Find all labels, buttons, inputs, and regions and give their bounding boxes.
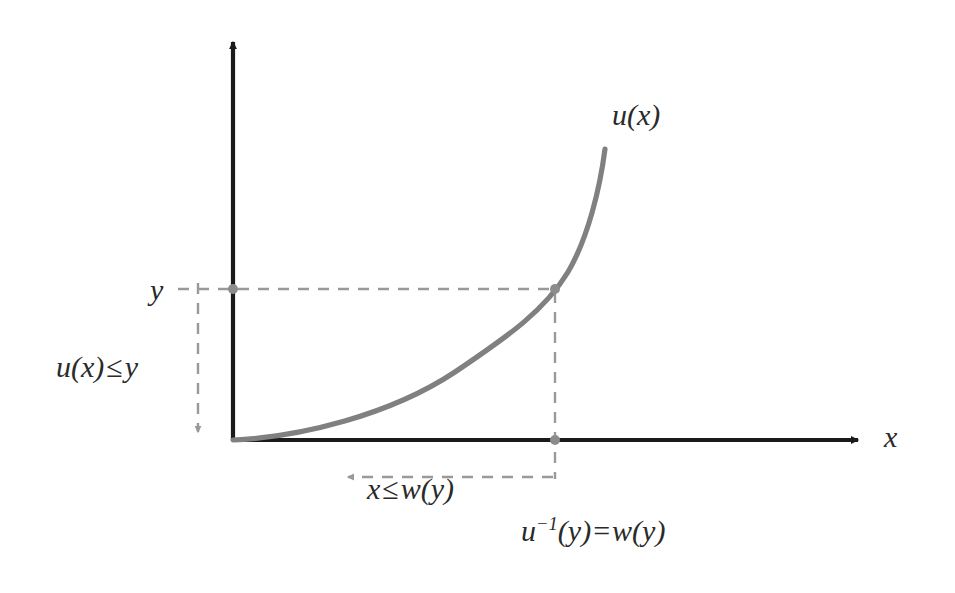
bracket-label-u-le-y-arg: (x) xyxy=(71,350,104,383)
curve-label-u-of-x: u(x) xyxy=(612,100,660,130)
bracket-label-u-le-y: u(x)≤y xyxy=(56,352,138,382)
x-axis-marker-dot xyxy=(550,435,560,445)
less-equal-operator-vertical: ≤ xyxy=(104,350,124,383)
diagram-graphic xyxy=(0,0,955,593)
inverse-equation-label: u−1(y)=w(y) xyxy=(521,516,665,546)
y-value-label: y xyxy=(150,275,163,305)
intersection-marker-dot xyxy=(550,284,560,294)
bracket-label-x-le-w-w: w(y) xyxy=(401,472,454,505)
bracket-label-x-le-w: x≤w(y) xyxy=(367,474,454,504)
figure-canvas: u(x) y u(x)≤y x x≤w(y) u−1(y)=w(y) xyxy=(0,0,955,593)
bracket-label-u-le-y-u: u xyxy=(56,350,71,383)
inverse-equation-u: u xyxy=(521,514,536,547)
y-axis-marker-dot xyxy=(228,284,238,294)
inverse-equation-w: w(y) xyxy=(612,514,665,547)
inverse-equation-arg: (y) xyxy=(558,514,591,547)
inverse-equation-exponent: −1 xyxy=(536,513,558,534)
equals-operator: = xyxy=(591,514,612,547)
utility-curve xyxy=(233,149,605,440)
bracket-label-x-le-w-x: x xyxy=(367,472,380,505)
less-equal-operator-horizontal: ≤ xyxy=(380,472,400,505)
bracket-label-u-le-y-y: y xyxy=(125,350,138,383)
x-axis-label: x xyxy=(884,422,897,452)
